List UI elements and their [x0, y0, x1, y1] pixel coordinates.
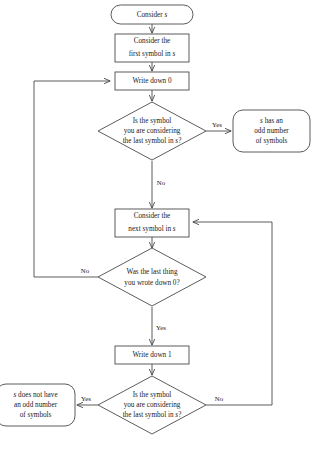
connector-wrote-zero-no-loop-to-write-zero	[34, 81, 110, 277]
node-first-symbol: Consider the first symbol in s	[115, 34, 189, 62]
node-decision-last-symbol-bottom: Is the symbol you are considering the la…	[98, 376, 206, 434]
not-odd-result-line-1: s does not have	[13, 391, 57, 399]
edge-label-bottom-no: No	[215, 395, 224, 402]
next-symbol-line-1: Consider the	[134, 212, 171, 220]
decision-wrote-zero-line-1: Was the last thing	[126, 268, 178, 276]
node-decision-last-symbol-top: Is the symbol you are considering the la…	[98, 102, 206, 160]
write-zero-label: Write down 0	[132, 77, 172, 85]
first-symbol-line-1: Consider the	[134, 37, 171, 45]
odd-result-line-1: s has an	[260, 117, 283, 125]
node-start: Consider s	[111, 5, 193, 24]
edge-label-top-yes: Yes	[212, 121, 222, 128]
first-symbol-line-2: first symbol in s	[129, 49, 176, 57]
edge-label-wrote-zero-yes: Yes	[156, 324, 166, 331]
decision-top-line-2: you are considering	[124, 127, 181, 135]
not-odd-result-line-3: of symbols	[20, 411, 52, 419]
edge-label-wrote-zero-no: No	[81, 267, 90, 274]
edge-label-top-no: No	[157, 179, 166, 186]
node-not-odd-result: s does not have an odd number of symbols	[0, 384, 75, 426]
edge-label-bottom-yes: Yes	[81, 395, 91, 402]
next-symbol-line-2: next symbol in s	[128, 224, 176, 232]
decision-top-line-3: the last symbol in s?	[123, 137, 182, 145]
decision-top-line-1: Is the symbol	[133, 117, 172, 125]
decision-wrote-zero-diamond-shape	[98, 248, 206, 306]
decision-wrote-zero-line-2: you wrote down 0?	[124, 279, 179, 287]
not-odd-result-line-2: an odd number	[14, 401, 58, 409]
flowchart-canvas: Consider s Consider the first symbol in …	[0, 0, 318, 458]
odd-result-line-2: odd number	[254, 127, 289, 135]
decision-bottom-line-1: Is the symbol	[133, 391, 172, 399]
decision-bottom-line-3: the last symbol in s?	[123, 411, 182, 419]
node-write-one: Write down 1	[115, 346, 189, 364]
node-decision-wrote-zero: Was the last thing you wrote down 0?	[98, 248, 206, 306]
decision-bottom-line-2: you are considering	[124, 401, 181, 409]
write-one-label: Write down 1	[132, 351, 172, 359]
connector-decision-bottom-no-loop-to-next-symbol	[193, 222, 272, 405]
flowchart-diagram: Consider s Consider the first symbol in …	[0, 0, 318, 458]
start-label: Consider s	[137, 11, 168, 19]
node-write-zero: Write down 0	[115, 72, 189, 90]
node-odd-result: s has an odd number of symbols	[233, 110, 310, 152]
odd-result-line-3: of symbols	[256, 137, 288, 145]
node-next-symbol: Consider the next symbol in s	[115, 209, 189, 237]
